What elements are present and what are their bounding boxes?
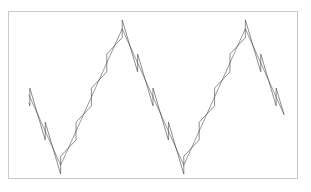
plot-frame — [8, 11, 298, 179]
series-triangle-wave — [29, 29, 284, 165]
waveform-plot-svg — [9, 12, 297, 178]
figure-root — [0, 0, 311, 192]
